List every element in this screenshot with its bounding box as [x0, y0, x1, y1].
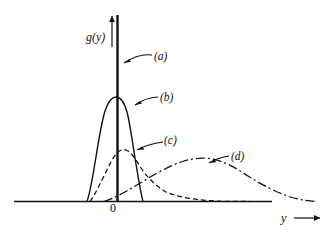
callout-line-d — [209, 156, 229, 163]
curve-label-a: (a) — [154, 50, 167, 62]
curve-label-c: (c) — [164, 134, 177, 146]
curve-c-dashed-density — [90, 150, 250, 202]
curve-label-b: (b) — [160, 91, 173, 103]
plot-canvas — [0, 0, 329, 235]
curve-label-d: (d) — [231, 150, 244, 162]
y-axis-label: g(y) — [86, 30, 105, 45]
callout-line-b — [135, 97, 158, 105]
figure-container: g(y) 0 y (a) (b) (c) (d) — [0, 0, 329, 235]
callout-line-a — [124, 55, 152, 63]
x-axis-label: y — [281, 211, 287, 226]
callout-line-c — [137, 142, 163, 150]
origin-label: 0 — [110, 201, 116, 216]
